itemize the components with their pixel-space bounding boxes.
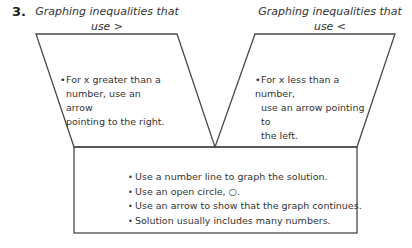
left-line-3: pointing to the right. (66, 116, 164, 127)
shared-bullet: Solution usually includes many numbers. (128, 214, 358, 229)
right-line-2: use an arrow pointing to (261, 102, 364, 127)
right-bullet-text: •For x less than a number, use an arrow … (255, 73, 370, 143)
shared-bullet: Use an open circle, ○. (128, 185, 358, 200)
left-line-1: For x greater than a (66, 74, 161, 85)
right-line-3: the left. (261, 130, 298, 141)
shared-bullet: Use a number line to graph the solution. (128, 170, 358, 185)
left-bullet-text: •For x greater than a number, use an arr… (60, 73, 170, 129)
right-line-1: For x less than a number, (255, 74, 339, 99)
left-line-2: number, use an arrow (66, 88, 141, 113)
shared-bullet-list: Use a number line to graph the solution.… (128, 170, 358, 228)
shared-bullet: Use an arrow to show that the graph cont… (128, 199, 358, 214)
